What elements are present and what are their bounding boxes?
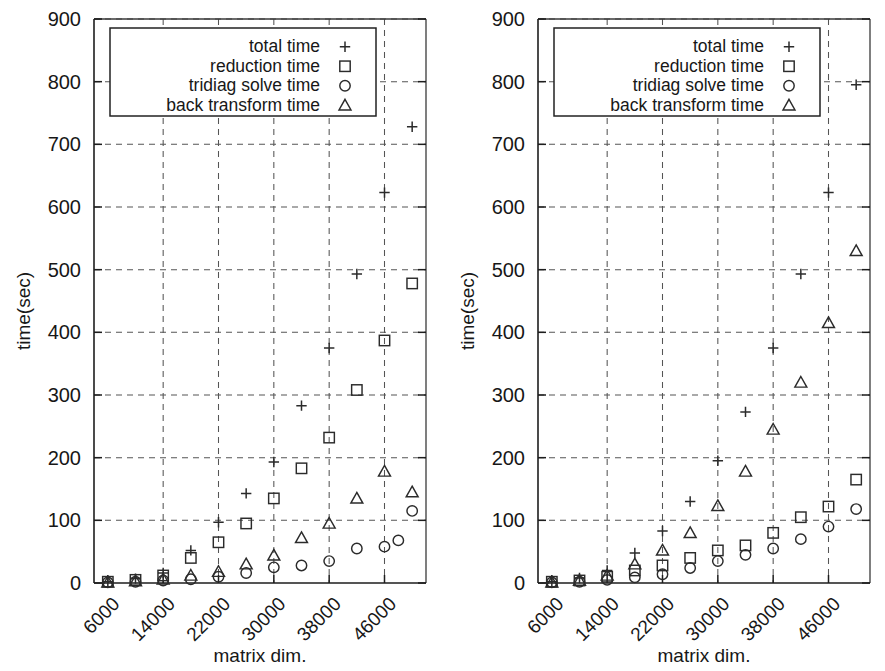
- square-marker: [352, 385, 362, 395]
- triangle-marker: [795, 376, 807, 387]
- y-tick-label: 500: [48, 259, 81, 281]
- triangle-marker: [296, 532, 308, 543]
- plus-marker: [657, 526, 667, 536]
- data-points-left: [102, 122, 418, 588]
- x-tick-label: 30000: [237, 593, 289, 645]
- circle-marker: [352, 543, 362, 553]
- legend-right: total timereduction timetridiag solve ti…: [554, 28, 820, 116]
- y-tick-label: 300: [48, 384, 81, 406]
- plus-marker: [685, 496, 695, 506]
- plus-marker: [352, 269, 362, 279]
- legend-label: back transform time: [610, 95, 764, 115]
- plus-marker: [241, 488, 251, 498]
- x-axis-title: matrix dim.: [214, 645, 307, 666]
- x-tick-label: 46000: [792, 593, 844, 645]
- circle-marker: [393, 535, 403, 545]
- plus-marker: [379, 187, 389, 197]
- x-tick-label: 6000: [79, 593, 124, 638]
- circle-marker: [296, 560, 306, 570]
- plus-marker: [630, 548, 640, 558]
- y-tick-label: 800: [48, 71, 81, 93]
- triangle-marker: [850, 245, 862, 256]
- square-marker: [851, 474, 861, 484]
- x-tick-label: 14000: [571, 593, 623, 645]
- x-axis-right: 60001400022000300003800046000: [523, 575, 844, 645]
- y-axis-title: time(sec): [13, 272, 34, 350]
- y-tick-label: 200: [492, 447, 525, 469]
- legend-label: tridiag solve time: [633, 75, 764, 95]
- legend-left: total timereduction timetridiag solve ti…: [110, 28, 376, 116]
- legend-label: total time: [693, 36, 764, 56]
- x-tick-label: 38000: [737, 593, 789, 645]
- triangle-marker: [185, 570, 197, 581]
- x-tick-label: 22000: [626, 593, 678, 645]
- x-tick-label: 6000: [523, 593, 568, 638]
- plus-marker: [186, 545, 196, 555]
- y-tick-label: 600: [48, 196, 81, 218]
- square-marker: [407, 278, 417, 288]
- circle-marker: [630, 572, 640, 582]
- y-tick-label: 0: [514, 572, 525, 594]
- circle-marker: [407, 506, 417, 516]
- plus-marker: [269, 457, 279, 467]
- chart-svg-right: 0100200300400500600700800900600014000220…: [444, 0, 885, 671]
- y-tick-label: 700: [48, 133, 81, 155]
- y-tick-label: 900: [492, 8, 525, 30]
- legend-label: tridiag solve time: [189, 75, 320, 95]
- y-tick-label: 600: [492, 196, 525, 218]
- y-tick-label: 500: [492, 259, 525, 281]
- square-marker: [296, 463, 306, 473]
- y-tick-label: 900: [48, 8, 81, 30]
- legend-label: back transform time: [166, 95, 320, 115]
- square-marker: [685, 553, 695, 563]
- chart-panel-right: 0100200300400500600700800900600014000220…: [444, 0, 885, 671]
- data-points-right: [546, 80, 862, 588]
- x-tick-label: 38000: [293, 593, 345, 645]
- y-tick-label: 800: [492, 71, 525, 93]
- triangle-marker: [406, 486, 418, 497]
- x-tick-label: 14000: [127, 593, 179, 645]
- plus-marker: [796, 269, 806, 279]
- plus-marker: [213, 517, 223, 527]
- circle-marker: [796, 534, 806, 544]
- x-tick-label: 30000: [681, 593, 733, 645]
- y-tick-label: 400: [48, 321, 81, 343]
- plus-marker: [296, 400, 306, 410]
- plus-marker: [823, 187, 833, 197]
- chart-svg-left: 0100200300400500600700800900600014000220…: [0, 0, 445, 671]
- plus-marker: [407, 122, 417, 132]
- x-axis-left: 60001400022000300003800046000: [79, 575, 400, 645]
- circle-marker: [685, 563, 695, 573]
- figure-root: 0100200300400500600700800900600014000220…: [0, 0, 885, 671]
- plus-marker: [740, 407, 750, 417]
- chart-panel-left: 0100200300400500600700800900600014000220…: [0, 0, 445, 671]
- y-tick-label: 0: [70, 572, 81, 594]
- y-tick-label: 700: [492, 133, 525, 155]
- y-tick-label: 100: [492, 509, 525, 531]
- legend-label: total time: [249, 36, 320, 56]
- circle-marker: [851, 504, 861, 514]
- triangle-marker: [684, 527, 696, 538]
- x-tick-label: 46000: [348, 593, 400, 645]
- triangle-marker: [740, 465, 752, 476]
- y-tick-label: 200: [48, 447, 81, 469]
- plus-marker: [768, 343, 778, 353]
- x-tick-label: 22000: [182, 593, 234, 645]
- plus-marker: [324, 343, 334, 353]
- legend-label: reduction time: [654, 56, 764, 76]
- y-axis-title: time(sec): [457, 272, 478, 350]
- y-tick-label: 300: [492, 384, 525, 406]
- y-tick-label: 400: [492, 321, 525, 343]
- x-axis-title: matrix dim.: [658, 645, 751, 666]
- triangle-marker: [351, 492, 363, 503]
- legend-label: reduction time: [210, 56, 320, 76]
- triangle-marker: [629, 558, 641, 569]
- y-tick-label: 100: [48, 509, 81, 531]
